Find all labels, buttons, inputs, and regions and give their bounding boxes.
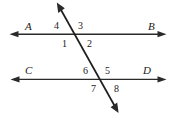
label-angle-1: 1 — [62, 39, 67, 49]
label-point-d: D — [143, 65, 151, 76]
label-angle-8: 8 — [114, 84, 119, 94]
label-angle-2: 2 — [87, 39, 92, 49]
label-angle-6: 6 — [83, 66, 88, 76]
bottom-parallel-line — [11, 76, 167, 82]
transversal-segment — [61, 9, 116, 107]
label-angle-4: 4 — [54, 21, 59, 31]
bottom-line-right-arrowhead-icon — [158, 76, 167, 82]
top-parallel-line — [10, 31, 167, 37]
label-point-b: B — [148, 21, 155, 32]
label-angle-7: 7 — [91, 84, 96, 94]
top-line-left-arrowhead-icon — [10, 31, 19, 37]
label-point-a: A — [25, 21, 32, 32]
label-angle-3: 3 — [78, 21, 83, 31]
transversal-line — [57, 2, 119, 113]
figure-canvas — [0, 0, 173, 117]
bottom-line-left-arrowhead-icon — [11, 76, 20, 82]
top-line-right-arrowhead-icon — [158, 31, 167, 37]
transversal-bottom-arrowhead-icon — [111, 102, 119, 113]
transversal-top-arrowhead-icon — [57, 2, 65, 13]
label-angle-5: 5 — [105, 66, 110, 76]
label-point-c: C — [25, 65, 32, 76]
geometry-figure: A B C D 4 3 1 2 6 5 7 8 — [0, 0, 173, 117]
